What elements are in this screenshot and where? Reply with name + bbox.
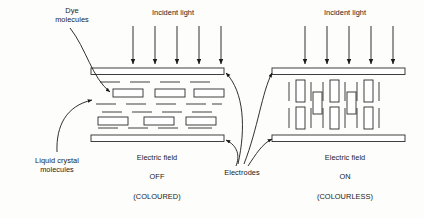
electrode-top-left	[91, 68, 224, 75]
dye-molecules-right	[296, 80, 373, 129]
incident-light-arrows-left	[133, 26, 221, 64]
electrode-top-right	[272, 68, 405, 75]
diagram-graphics	[0, 0, 424, 218]
electric-field-label-right: Electric field	[300, 153, 390, 162]
electrodes-label: Electrodes	[202, 168, 282, 177]
electric-field-label-left: Electric field	[112, 153, 202, 162]
appearance-label-left: (COLOURED)	[107, 192, 207, 201]
incident-light-label-right: Incident light	[295, 8, 395, 17]
electrodes-leaders	[226, 73, 272, 166]
liquid-crystal-diagram: Dye molecules Incident light Incident li…	[0, 0, 424, 218]
dye-molecules-left	[98, 89, 224, 125]
electrode-bottom-left	[91, 135, 224, 142]
dye-molecules-label: Dye molecules	[36, 6, 108, 24]
electrode-bottom-right	[272, 135, 405, 142]
incident-light-arrows-right	[305, 26, 393, 64]
liquid-crystal-molecules-label: Liquid crystal molecules	[8, 156, 106, 174]
incident-light-label-left: Incident light	[123, 8, 223, 17]
appearance-label-right: (COLOURLESS)	[295, 192, 395, 201]
field-state-label-right: ON	[300, 172, 390, 181]
liquid-crystal-molecules-leader	[57, 100, 92, 152]
field-state-label-left: OFF	[112, 172, 202, 181]
